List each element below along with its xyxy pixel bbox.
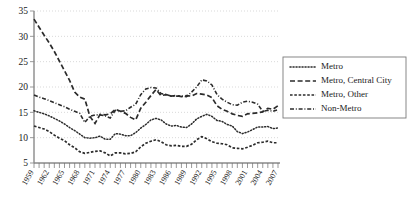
x-tick-label: 1983 bbox=[142, 169, 158, 187]
y-tick-label: 25 bbox=[19, 57, 29, 67]
chart-canvas: 5101520253035195919621965196819711974197… bbox=[0, 0, 413, 205]
y-tick-label: 15 bbox=[19, 108, 29, 118]
x-tick-label: 1992 bbox=[188, 169, 204, 187]
y-tick-label: 20 bbox=[19, 82, 29, 92]
x-tick-label: 1995 bbox=[203, 169, 219, 187]
legend-label: Metro, Other bbox=[321, 89, 368, 99]
x-tick-label: 2001 bbox=[233, 169, 249, 187]
x-tick-label: 1962 bbox=[35, 169, 51, 187]
series-line-metro bbox=[34, 111, 278, 139]
x-tick-label: 1977 bbox=[111, 169, 127, 187]
x-tick-label: 2007 bbox=[264, 169, 280, 187]
x-tick-label: 1965 bbox=[50, 169, 66, 187]
x-tick-label: 1986 bbox=[157, 169, 173, 187]
legend-label: Metro, Central City bbox=[321, 75, 392, 85]
x-tick-label: 1980 bbox=[127, 169, 143, 187]
y-tick-label: 5 bbox=[23, 158, 28, 168]
x-tick-label: 1971 bbox=[81, 169, 97, 187]
legend-label: Non-Metro bbox=[321, 103, 362, 113]
series-line-metro-other bbox=[34, 126, 278, 156]
x-tick-label: 1974 bbox=[96, 169, 112, 187]
x-tick-label: 1989 bbox=[172, 169, 188, 187]
x-tick-label: 2004 bbox=[249, 169, 265, 187]
x-tick-label: 1998 bbox=[218, 169, 234, 187]
legend-label: Metro bbox=[321, 61, 343, 71]
x-tick-label: 1959 bbox=[20, 169, 36, 187]
y-tick-label: 30 bbox=[19, 32, 29, 42]
x-tick-label: 1968 bbox=[66, 169, 82, 187]
y-tick-label: 35 bbox=[19, 6, 29, 16]
y-tick-label: 10 bbox=[19, 133, 29, 143]
series-line-metro-central-city bbox=[34, 19, 278, 123]
poverty-rate-line-chart: 5101520253035195919621965196819711974197… bbox=[0, 0, 413, 205]
